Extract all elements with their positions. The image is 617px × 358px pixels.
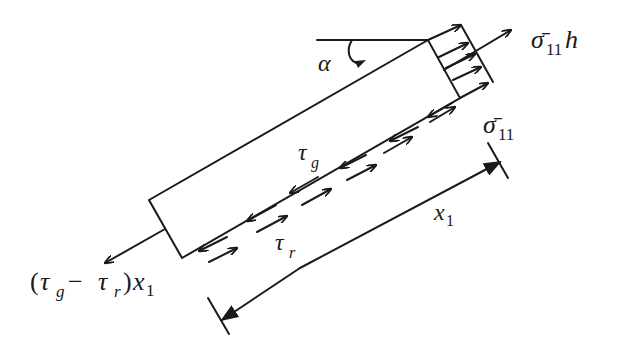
normal-stress-arrows <box>428 25 493 98</box>
stress-label: σ̄ 11 <box>483 110 514 144</box>
svg-text:−: − <box>68 267 83 296</box>
svg-text:g: g <box>56 282 65 301</box>
svg-text:(: ( <box>30 267 39 296</box>
svg-text:11: 11 <box>546 40 562 59</box>
svg-text:1: 1 <box>146 281 155 300</box>
angle-label: α <box>318 50 331 76</box>
svg-text:11: 11 <box>498 125 514 144</box>
angle-arc-icon <box>349 40 366 68</box>
svg-text:r: r <box>289 244 296 261</box>
force-right-label: σ̄ 11 h <box>531 25 578 59</box>
left-force-label: ( τ g − τ r ) x 1 <box>30 267 155 301</box>
svg-text:g: g <box>311 154 319 172</box>
svg-text:1: 1 <box>446 212 454 229</box>
resultant-force-left-arrow <box>105 229 165 263</box>
svg-text:τ: τ <box>275 229 285 255</box>
tau-g-label: τ g <box>298 139 319 172</box>
shear-arrows-tau-r <box>209 107 455 262</box>
diagram-canvas: α σ̄ 11 h σ̄ 11 τ g τ r x 1 ( τ g − τ r … <box>0 0 617 358</box>
svg-text:τ: τ <box>98 267 109 296</box>
svg-text:r: r <box>114 282 121 301</box>
tau-r-label: τ r <box>275 229 296 261</box>
svg-text:x: x <box>132 267 145 296</box>
length-label: x 1 <box>433 199 454 229</box>
svg-text:): ) <box>123 267 132 296</box>
svg-text:h: h <box>565 25 578 54</box>
svg-text:τ: τ <box>298 139 308 165</box>
svg-text:x: x <box>433 199 445 225</box>
svg-text:τ: τ <box>40 267 51 296</box>
dimension-line-x1 <box>208 143 508 334</box>
